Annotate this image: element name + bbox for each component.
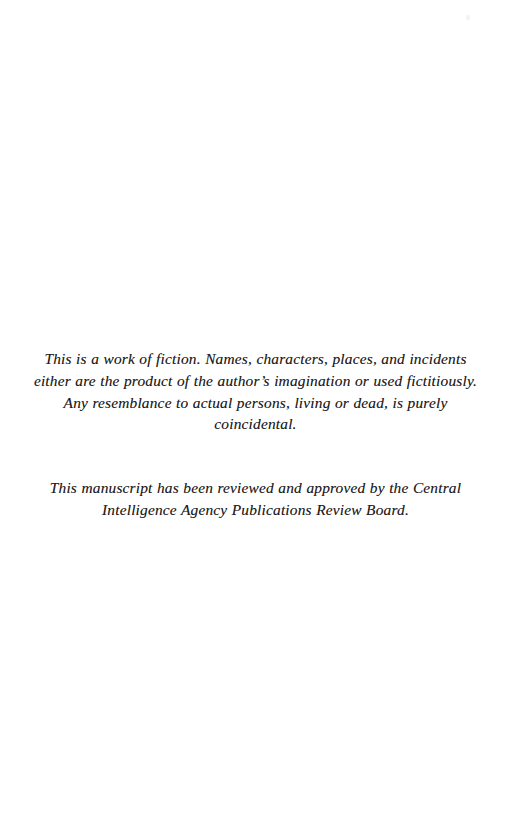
- paragraph-spacer: [33, 435, 478, 477]
- fiction-disclaimer-paragraph: This is a work of fiction. Names, charac…: [33, 348, 478, 435]
- scan-speck-artifact: [466, 15, 470, 20]
- publications-review-board-paragraph: This manuscript has been reviewed and ap…: [33, 477, 478, 521]
- scanned-page: This is a work of fiction. Names, charac…: [0, 0, 511, 828]
- front-matter-text-block: This is a work of fiction. Names, charac…: [33, 348, 478, 521]
